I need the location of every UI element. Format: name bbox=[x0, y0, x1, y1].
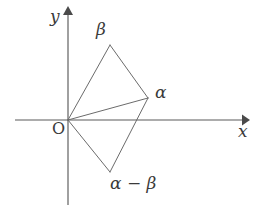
edge-origin-to-beta bbox=[68, 45, 110, 120]
geometry-figure: y x O β α α − β bbox=[0, 0, 261, 211]
origin-label: O bbox=[52, 121, 65, 137]
alpha-minus-beta-point-label: α − β bbox=[110, 175, 156, 192]
edge-alpha-minus-beta-to-origin bbox=[68, 120, 110, 172]
beta-point-label: β bbox=[96, 21, 106, 38]
edge-origin-to-alpha-diagonal bbox=[68, 98, 148, 120]
x-axis-label: x bbox=[238, 123, 248, 140]
alpha-point-label: α bbox=[155, 84, 166, 101]
y-axis-label: y bbox=[50, 8, 60, 25]
y-axis-arrowhead bbox=[63, 6, 73, 15]
edge-beta-to-alpha bbox=[110, 45, 148, 98]
edge-alpha-to-alpha-minus-beta bbox=[110, 98, 148, 172]
